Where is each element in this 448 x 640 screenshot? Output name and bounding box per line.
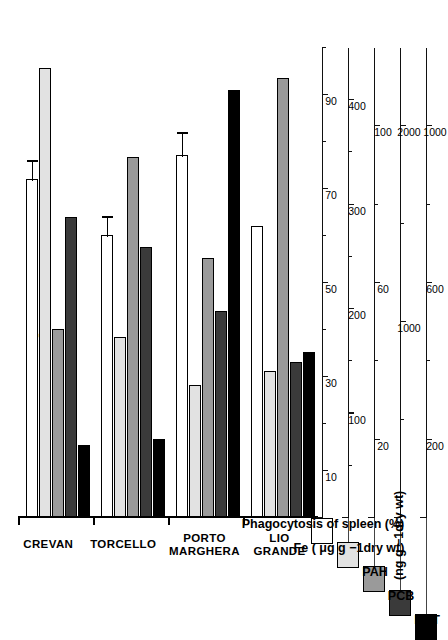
axis-tick-label: 1000 [423, 126, 446, 138]
axis-tick-label: 90 [325, 95, 337, 107]
axis-tick-minor [348, 256, 352, 257]
error-bar [32, 162, 34, 181]
bar-group [93, 48, 168, 518]
bar-pah [202, 259, 214, 518]
bar-pcb [215, 311, 227, 517]
group-tick [168, 518, 170, 525]
axis-tick-label: 1000 [397, 322, 420, 334]
bar-ddt [228, 90, 240, 517]
bar-pah [127, 157, 139, 517]
axis-line [400, 48, 401, 518]
bar-pah [52, 329, 64, 517]
legend-leader-line [374, 518, 375, 566]
axis-tick-label: 100 [374, 126, 392, 138]
axis-tick-minor [426, 204, 430, 205]
bar-ddt [78, 445, 90, 517]
axis-tick-label: 100 [348, 414, 366, 426]
legend-label-fe: Fe ( μg g −1dry wt) [294, 541, 405, 555]
error-bar [182, 134, 184, 158]
bar-phago [251, 226, 263, 517]
axis-line [374, 48, 375, 518]
error-bar [107, 218, 109, 237]
error-bar-cap [27, 160, 38, 162]
legend-leader-line [426, 518, 427, 614]
bar-pcb [65, 217, 77, 517]
axis-tick-minor [374, 360, 378, 361]
bar-phago [26, 179, 38, 517]
bar-group [18, 48, 93, 518]
axis-tick-label: 10 [325, 471, 337, 483]
bar-pah [277, 78, 289, 517]
pah-axis: 2060100 [374, 48, 396, 518]
axis-tick-label: 300 [348, 205, 366, 217]
fe-axis: 100200300400 [348, 48, 370, 518]
axis-tick-minor [322, 329, 326, 330]
bar-fe [189, 385, 201, 517]
axis-tick-minor [322, 141, 326, 142]
legend-label-ddt: DDT [414, 613, 440, 627]
bar-ddt [153, 439, 165, 517]
axis-tick-label: 2000 [397, 126, 420, 138]
bar-group [168, 48, 243, 518]
axis-tick-minor [426, 360, 430, 361]
axis-tick-minor [322, 47, 326, 48]
bar-group [243, 48, 318, 518]
bar-fe [264, 371, 276, 517]
axis-tick-label: 200 [348, 309, 366, 321]
error-bar-cap [102, 216, 113, 218]
legend-label-pah: PAH [362, 565, 387, 579]
axis-tick-minor [322, 423, 326, 424]
axis-line [348, 48, 349, 518]
legend-label-pcb: PCB [388, 589, 414, 603]
axis-tick-label: 50 [325, 283, 337, 295]
axis-tick-minor [400, 419, 404, 420]
axis-tick-minor [348, 151, 352, 152]
axis-tick-label: 70 [325, 189, 337, 201]
bar-fe [39, 68, 51, 517]
axis-line [322, 48, 323, 518]
axis-tick-label: 200 [426, 440, 444, 452]
bar-pcb [290, 362, 302, 517]
axis-tick-label: 30 [325, 377, 337, 389]
units-note: (ng g −1dry wt) [392, 491, 406, 580]
legend-leader-line [348, 518, 349, 542]
legend-label-phago: Phagocytosis of spleen (%) [242, 517, 405, 531]
axis-tick-label: 600 [426, 283, 444, 295]
error-bar-cap [177, 132, 188, 134]
axis-tick-minor [400, 223, 404, 224]
axis-tick-minor [322, 235, 326, 236]
axis-tick-minor [348, 360, 352, 361]
bar-phago [176, 155, 188, 517]
bar-phago [101, 235, 113, 517]
axis-tick-label: 400 [348, 100, 366, 112]
bar-pcb [140, 247, 152, 517]
axis-tick-minor [374, 204, 378, 205]
phagocytosis-axis: 1030507090 [322, 48, 344, 518]
group-tick [18, 518, 20, 525]
pcb-axis: 10002000 [400, 48, 422, 518]
axis-tick-label: 20 [377, 440, 389, 452]
ddt-axis: 2006001000 [426, 48, 448, 518]
bar-ddt [303, 353, 315, 518]
axis-tick-minor [348, 465, 352, 466]
axis-tick-label: 60 [377, 283, 389, 295]
plot-area [18, 48, 318, 518]
group-tick [93, 518, 95, 525]
bar-fe [114, 337, 126, 517]
